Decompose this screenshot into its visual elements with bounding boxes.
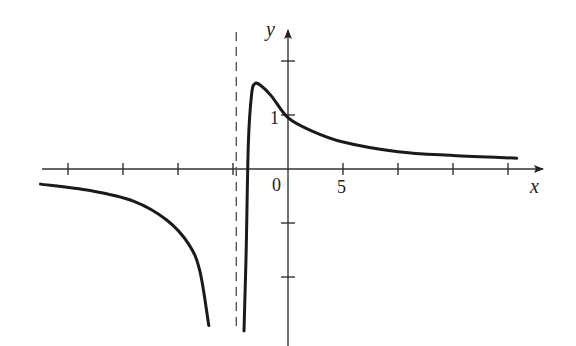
y-tick-label-1: 1 [270,108,279,128]
x-tick-label-5: 5 [337,177,346,197]
curve-right-branch [244,83,517,331]
function-graph: x y 0 5 1 [0,0,576,346]
curve-left-branch [41,184,209,325]
origin-label: 0 [272,175,281,195]
y-axis-label: y [264,18,275,41]
x-axis-label: x [529,175,539,197]
